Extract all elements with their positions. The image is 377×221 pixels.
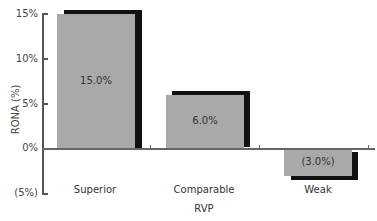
x-tick	[150, 145, 151, 149]
x-tick-label: Superior	[47, 184, 143, 195]
x-tick-label: Comparable	[156, 184, 252, 195]
y-tick-label: 0%	[0, 142, 38, 153]
bar-value-label: 6.0%	[166, 115, 244, 126]
y-tick-label: (5%)	[0, 187, 38, 198]
x-tick	[259, 145, 260, 149]
x-tick	[368, 145, 369, 149]
x-tick-label: Weak	[270, 184, 366, 195]
zero-baseline	[42, 148, 375, 150]
y-tick-label: 10%	[0, 53, 38, 64]
y-axis-title: RONA (%)	[10, 85, 21, 135]
y-tick	[42, 103, 48, 105]
bar-value-label: 15.0%	[57, 75, 135, 86]
y-tick	[42, 58, 48, 60]
y-tick-label: 15%	[0, 8, 38, 19]
y-tick	[42, 13, 48, 15]
bar-value-label: (3.0%)	[284, 156, 352, 167]
x-axis-title: RVP	[156, 203, 252, 214]
